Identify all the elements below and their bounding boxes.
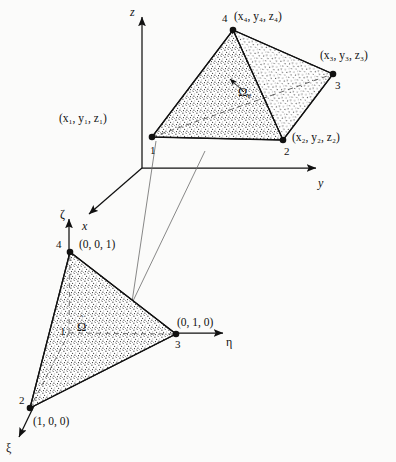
physical-node-2-coords: (x₂, y₂, z₂) <box>292 132 340 144</box>
master-node-3-dot <box>173 331 180 338</box>
physical-node-1-number: 1 <box>150 145 156 156</box>
eta-axis-label: η <box>226 336 232 348</box>
master-node-4-coords: (0, 0, 1) <box>79 239 115 251</box>
physical-node-4-number: 4 <box>222 13 228 24</box>
master-domain-label: ˆΩ <box>77 321 86 334</box>
xi-axis-label: ξ <box>6 442 11 454</box>
mapping-line-right <box>133 151 205 301</box>
physical-domain-omega: Ω <box>238 85 247 99</box>
physical-node-4-coords: (x₄, y₄, z₄) <box>234 11 282 23</box>
physical-node-1-dot <box>149 134 156 141</box>
master-node-3-number: 3 <box>175 339 181 350</box>
y-axis-label: y <box>318 177 323 189</box>
z-axis-label: z <box>130 6 135 18</box>
physical-node-4-dot <box>230 27 237 34</box>
master-node-4-number: 4 <box>56 239 62 250</box>
physical-node-3-dot <box>330 71 337 78</box>
mapping-connector <box>132 141 205 302</box>
physical-node-1-coords: (x₁, y₁, z₁) <box>59 113 107 125</box>
zeta-axis-label: ζ <box>60 208 65 220</box>
master-tetrahedron <box>27 249 180 412</box>
master-node-3-coords: (0, 1, 0) <box>177 317 213 329</box>
master-node-1-number: 1 <box>60 326 66 337</box>
master-node-2-number: 2 <box>19 395 25 406</box>
figure-canvas: z y x 1 2 3 4 (x₁, y₁, z₁) (x₂, y₂, z₂) … <box>0 0 396 462</box>
x-axis-label: x <box>82 220 87 232</box>
physical-domain-subscript: e <box>247 90 251 100</box>
x-axis-line <box>89 168 142 214</box>
master-domain-accent: ˆ <box>80 315 84 326</box>
master-node-4-dot <box>67 249 74 256</box>
physical-domain-label: Ωe <box>238 86 251 100</box>
physical-node-3-coords: (x₃, y₃, z₃) <box>320 50 368 62</box>
figure-artwork <box>0 0 396 462</box>
master-node-2-dot <box>27 405 34 412</box>
physical-node-3-number: 3 <box>335 80 341 91</box>
physical-node-2-number: 2 <box>284 146 290 157</box>
physical-node-2-dot <box>280 137 287 144</box>
master-node-2-coords: (1, 0, 0) <box>33 416 69 428</box>
master-face-234 <box>30 252 176 408</box>
